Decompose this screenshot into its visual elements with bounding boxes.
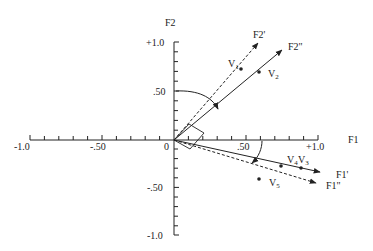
- f1-tick-050: .50: [237, 141, 250, 152]
- f2-tick-pos1: +1.0: [146, 37, 164, 48]
- f2-axis-label: F2: [165, 17, 176, 28]
- point-v3: [299, 166, 303, 170]
- point-v1: [239, 67, 243, 71]
- label-v2: V2: [268, 68, 279, 81]
- f2-tick-neg050: -.50: [147, 182, 163, 193]
- f2-axis: +1.0 .50 -.50 -1.0 F2: [146, 17, 179, 241]
- f1-axis-label: F1: [348, 134, 359, 145]
- f1-prime-label: F1': [336, 169, 349, 180]
- factor-rotation-diagram: -1.0 -.50 0 .50 +1.0 F1: [0, 0, 373, 251]
- f2-tick-050: .50: [153, 86, 166, 97]
- label-v1: V1: [228, 58, 239, 71]
- origin-label: 0: [164, 141, 169, 152]
- f1-tick-neg1: -1.0: [14, 141, 30, 152]
- label-v5: V5: [269, 177, 280, 190]
- f2-double-prime-label: F2": [288, 41, 303, 52]
- point-v2: [257, 70, 261, 74]
- label-v3: V3: [298, 154, 309, 167]
- f1-tick-neg050: -.50: [90, 141, 106, 152]
- f1-tick-pos1: +1.0: [306, 141, 324, 152]
- point-v4: [279, 164, 283, 168]
- f2-prime-label: F2': [253, 29, 266, 40]
- rotation-arc-upper: [176, 91, 218, 109]
- rotation-arc-lower: [252, 141, 262, 163]
- point-v5: [257, 177, 261, 181]
- f2-tick-neg1: -1.0: [147, 230, 163, 241]
- f1-double-prime-label: F1": [326, 180, 341, 191]
